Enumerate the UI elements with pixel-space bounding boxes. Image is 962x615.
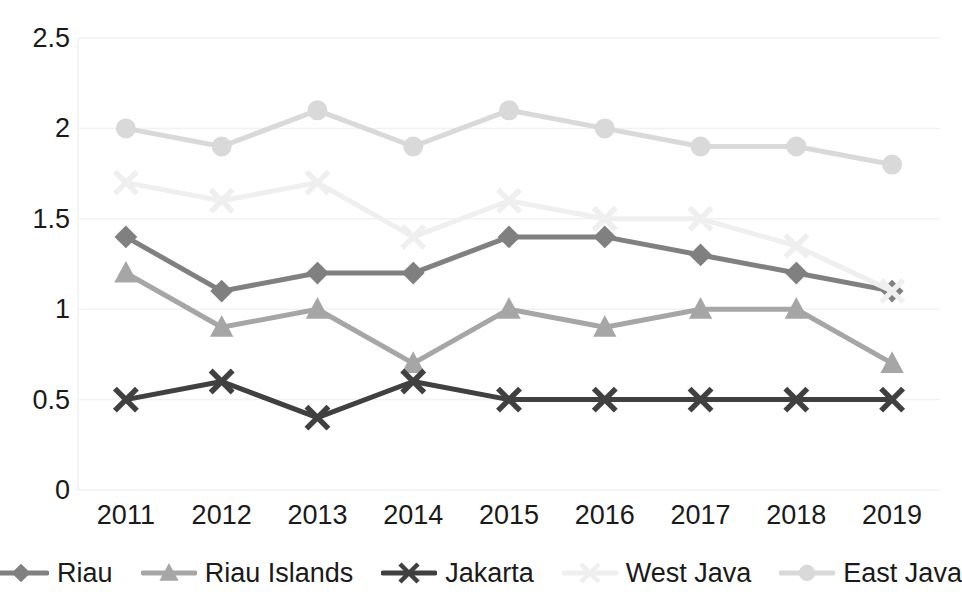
legend-marker-diamond-icon	[0, 560, 49, 586]
legend-item-east-java[interactable]: East Java	[779, 560, 962, 587]
legend-label: Riau	[57, 560, 113, 587]
data-point-east-java-2013	[308, 101, 326, 119]
y-axis: 2.521.510.50	[0, 0, 70, 500]
legend-marker-circle-icon	[779, 560, 835, 586]
data-point-west-java-2014	[402, 226, 424, 248]
x-axis: 201120122013201420152016201720182019	[0, 498, 955, 544]
data-point-riau-islands-2011	[116, 263, 136, 282]
x-axis-tick-label: 2013	[269, 502, 365, 529]
series-riau	[116, 227, 902, 301]
legend-item-riau[interactable]: Riau	[0, 560, 113, 587]
legend-label: Jakarta	[445, 560, 534, 587]
data-point-riau-2016	[595, 227, 615, 247]
y-axis-tick-label: 1.5	[8, 205, 70, 232]
data-point-east-java-2015	[500, 101, 518, 119]
y-axis-tick-label: 2.5	[8, 25, 70, 52]
y-axis-tick-label: 1	[8, 296, 70, 323]
data-point-riau-2011	[116, 227, 136, 247]
series-east-java	[117, 101, 901, 173]
legend-item-riau-islands[interactable]: Riau Islands	[141, 560, 354, 587]
data-point-riau-2017	[691, 245, 711, 265]
x-axis-tick-label: 2016	[557, 502, 653, 529]
data-point-east-java-2014	[404, 137, 422, 155]
x-axis-tick-label: 2011	[78, 502, 174, 529]
data-point-riau-islands-2014	[403, 353, 423, 372]
legend-item-jakarta[interactable]: Jakarta	[381, 560, 534, 587]
data-point-east-java-2018	[787, 137, 805, 155]
data-point-riau-2018	[786, 263, 806, 283]
data-point-east-java-2019	[883, 156, 901, 174]
data-point-east-java-2017	[692, 137, 710, 155]
data-point-riau-2011	[13, 565, 29, 581]
plot-area	[0, 0, 955, 500]
x-axis-tick-label: 2017	[653, 502, 749, 529]
legend-label: East Java	[843, 560, 962, 587]
data-point-riau-2015	[499, 227, 519, 247]
legend-marker-triangle-icon	[141, 560, 197, 586]
data-point-east-java-2016	[596, 119, 614, 137]
series-riau-islands	[116, 263, 902, 372]
data-point-jakarta-2013	[306, 407, 328, 429]
legend: RiauRiau IslandsJakartaWest JavaEast Jav…	[0, 548, 955, 598]
y-axis-tick-label: 0.5	[8, 386, 70, 413]
legend-item-west-java[interactable]: West Java	[562, 560, 752, 587]
data-point-east-java-2011	[117, 119, 135, 137]
plot-svg	[0, 0, 955, 500]
data-point-riau-2012	[212, 281, 232, 301]
data-point-riau-islands-2019	[882, 353, 902, 372]
data-point-riau-2013	[307, 263, 327, 283]
x-axis-tick-label: 2018	[748, 502, 844, 529]
data-point-east-java-2011	[800, 566, 815, 581]
legend-label: Riau Islands	[205, 560, 354, 587]
data-point-east-java-2012	[213, 137, 231, 155]
legend-label: West Java	[626, 560, 752, 587]
x-axis-tick-label: 2015	[461, 502, 557, 529]
legend-marker-x-icon	[381, 560, 437, 586]
x-axis-tick-label: 2012	[174, 502, 270, 529]
legend-marker-x-icon	[562, 560, 618, 586]
x-axis-tick-label: 2014	[365, 502, 461, 529]
data-point-riau-2014	[403, 263, 423, 283]
x-axis-tick-label: 2019	[844, 502, 940, 529]
y-axis-tick-label: 2	[8, 115, 70, 142]
